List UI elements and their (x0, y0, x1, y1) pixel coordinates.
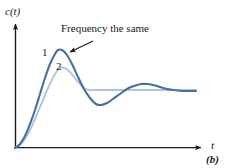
y-axis-label: c(t) (5, 6, 20, 17)
response-curve-2 (15, 67, 196, 148)
figure-caption: (b) (206, 154, 219, 165)
curve-1-label: 1 (42, 47, 48, 58)
x-axis-label: t (211, 140, 214, 151)
annotation-arrow (70, 41, 93, 52)
response-curve-1 (15, 49, 196, 148)
curve-2-label: 2 (56, 61, 62, 72)
annotation-text: Frequency the same (61, 23, 149, 34)
figure-container: c(t) t Frequency the same 1 2 (b) (0, 0, 229, 168)
